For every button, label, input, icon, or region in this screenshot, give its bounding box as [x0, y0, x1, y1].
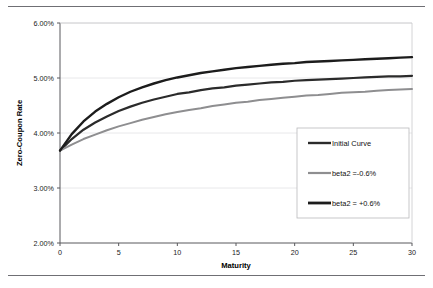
- figure-container: 2.00%3.00%4.00%5.00%6.00% 051015202530 M…: [0, 0, 433, 288]
- x-tick-label: 20: [291, 248, 299, 257]
- top-divider-rule: [8, 6, 425, 7]
- y-tick-label: 3.00%: [34, 184, 55, 193]
- legend-label: beta2 =-0.6%: [332, 169, 377, 178]
- y-tick-label: 6.00%: [34, 19, 55, 28]
- chart-legend: Initial Curvebeta2 =-0.6%beta2 = +0.6%: [297, 128, 409, 218]
- zero-coupon-rate-line-chart: 2.00%3.00%4.00%5.00%6.00% 051015202530 M…: [0, 10, 433, 272]
- x-axis-tick-labels: 051015202530: [58, 248, 416, 257]
- y-tick-label: 4.00%: [34, 129, 55, 138]
- x-tick-label: 15: [232, 248, 240, 257]
- x-tick-label: 30: [408, 248, 416, 257]
- x-tick-label: 25: [349, 248, 357, 257]
- x-tick-label: 5: [117, 248, 121, 257]
- y-axis-tick-labels: 2.00%3.00%4.00%5.00%6.00%: [34, 19, 55, 248]
- bottom-divider-rule: [8, 275, 425, 276]
- legend-label: beta2 = +0.6%: [332, 199, 381, 208]
- chart-plot-area: 2.00%3.00%4.00%5.00%6.00% 051015202530 M…: [0, 10, 433, 272]
- y-tick-label: 2.00%: [34, 239, 55, 248]
- x-tick-label: 10: [173, 248, 181, 257]
- legend-label: Initial Curve: [332, 139, 371, 148]
- x-axis-title: Maturity: [221, 261, 251, 270]
- y-axis-title: Zero-Coupon Rate: [15, 100, 24, 166]
- x-tick-label: 0: [58, 248, 62, 257]
- y-tick-label: 5.00%: [34, 74, 55, 83]
